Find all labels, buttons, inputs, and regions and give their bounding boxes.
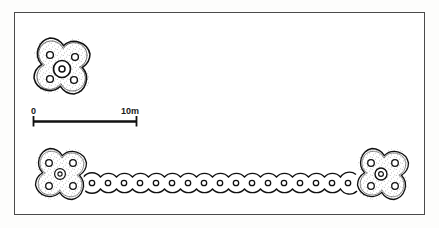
post-hole	[46, 183, 53, 190]
post-hole	[105, 180, 110, 185]
post-hole	[297, 180, 302, 185]
post-hole	[233, 180, 238, 185]
central-hearth-ring	[375, 168, 387, 180]
post-hole	[71, 77, 78, 84]
post-hole	[249, 180, 254, 185]
post-hole	[345, 180, 350, 185]
structure-long-alignment	[36, 149, 409, 200]
post-hole	[185, 180, 190, 185]
post-hole	[368, 160, 375, 167]
post-hole	[47, 52, 54, 59]
post-hole	[70, 160, 77, 167]
post-hole	[47, 76, 54, 83]
post-hole	[70, 183, 77, 190]
structure-right-terminal-quatrefoil	[358, 149, 409, 200]
structure-left-terminal-quatrefoil	[36, 149, 87, 200]
post-hole	[392, 183, 399, 190]
post-hole	[392, 160, 399, 167]
structure-upper-quatrefoil	[34, 38, 90, 94]
figure-plate: 0 10m	[0, 0, 439, 228]
scale-bar	[33, 116, 137, 127]
post-hole	[46, 160, 53, 167]
post-hole	[201, 180, 206, 185]
post-hole	[368, 183, 375, 190]
post-hole	[153, 180, 158, 185]
post-hole	[89, 180, 94, 185]
post-hole	[329, 180, 334, 185]
post-hole	[313, 180, 318, 185]
post-hole	[217, 180, 222, 185]
post-hole	[72, 54, 79, 61]
post-hole	[137, 180, 142, 185]
scale-bar-end-label: 10m	[121, 107, 139, 116]
central-hearth-ring	[55, 169, 66, 180]
post-hole	[169, 180, 174, 185]
post-hole	[281, 180, 286, 185]
site-plan-drawing	[0, 0, 439, 228]
central-hearth-ring	[54, 61, 71, 78]
post-hole	[121, 180, 126, 185]
post-hole	[265, 180, 270, 185]
scale-bar-start-label: 0	[31, 107, 36, 116]
